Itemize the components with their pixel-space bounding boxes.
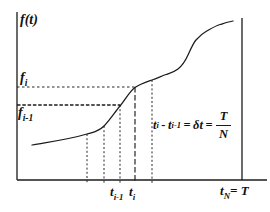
annotation-t1-subscript: i bbox=[156, 121, 158, 130]
f-i-minus-1-subscript: i-1 bbox=[23, 113, 34, 123]
t-i-label: ti bbox=[129, 185, 135, 201]
f-i-label: fi bbox=[20, 71, 27, 88]
equals-sign-2: = bbox=[205, 119, 212, 132]
f-i-minus-1-label: fi-1 bbox=[18, 106, 33, 123]
fraction-denominator: N bbox=[216, 125, 231, 141]
minus-sign: - bbox=[161, 119, 165, 132]
T-over-N-fraction: TN bbox=[216, 110, 231, 140]
annotation-t2-subscript: i-1 bbox=[172, 121, 181, 130]
t-N-equals-T-label: tN= T bbox=[220, 184, 249, 200]
y-axis-label: f(t) bbox=[20, 13, 38, 27]
t-i-minus-1-label: ti-1 bbox=[110, 185, 123, 201]
fraction-numerator: T bbox=[217, 110, 231, 125]
f-i-subscript: i bbox=[25, 78, 28, 88]
t-N-equals-T-suffix: = T bbox=[230, 183, 249, 198]
equals-sign-1: = bbox=[183, 119, 190, 132]
t-i-minus-1-subscript: i-1 bbox=[114, 192, 124, 202]
delta-t-annotation: ti-ti-1=δt=TN bbox=[153, 106, 231, 144]
t-i-subscript: i bbox=[133, 192, 135, 202]
delta-t-term: δt bbox=[193, 119, 203, 132]
discretization-figure: f(t) fi fi-1 ti-1 ti tN= T ti-ti-1=δt=TN bbox=[0, 0, 270, 212]
